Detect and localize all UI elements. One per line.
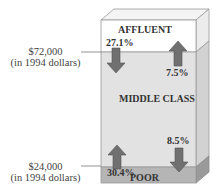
threshold-lower-note: (in 1994 dollars) [8, 172, 83, 183]
threshold-upper-note: (in 1994 dollars) [8, 57, 83, 68]
threshold-upper-label: $72,000 (in 1994 dollars) [8, 46, 83, 68]
threshold-lower-amount: $24,000 [8, 161, 83, 172]
flow-label-middle-to-affluent: 7.5% [166, 67, 189, 78]
flow-label-poor-to-middle: 30.4% [107, 167, 135, 178]
section-label-middle-class: MIDDLE CLASS [119, 93, 195, 104]
flow-label-affluent-to-middle: 27.1% [106, 37, 134, 48]
section-label-affluent: AFFLUENT [118, 24, 172, 35]
threshold-upper-amount: $72,000 [8, 46, 83, 57]
flow-label-middle-to-poor: 8.5% [167, 135, 190, 146]
threshold-lower-label: $24,000 (in 1994 dollars) [8, 161, 83, 183]
